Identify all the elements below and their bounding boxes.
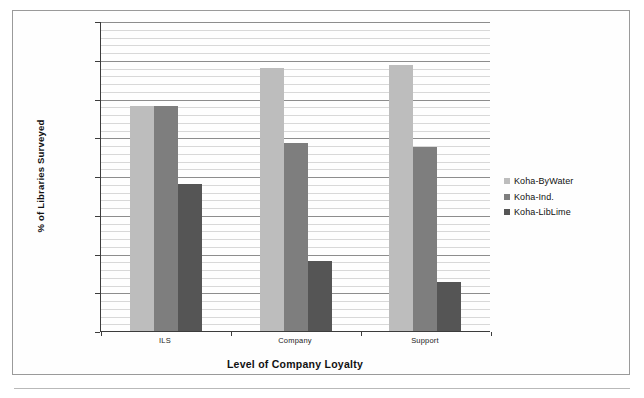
x-axis-tick-mark — [491, 332, 492, 336]
legend-item: Koha-LibLime — [504, 207, 573, 217]
bar — [389, 65, 413, 331]
bar — [130, 106, 154, 331]
legend-label: Koha-ByWater — [514, 176, 573, 186]
y-axis-tick-mark — [95, 332, 100, 333]
legend-swatch-icon — [504, 178, 510, 184]
bar — [413, 147, 437, 331]
legend-swatch-icon — [504, 209, 510, 215]
bar — [308, 261, 332, 331]
page-horizontal-rule — [14, 388, 630, 389]
y-axis-tick-labels: 98.587.576.565.55 — [0, 0, 100, 332]
bar — [437, 282, 461, 331]
x-axis-tick-label: Support — [360, 336, 490, 345]
chart-page: % of Libraries Surveyed 98.587.576.565.5… — [0, 0, 644, 398]
legend-swatch-icon — [504, 194, 510, 200]
bar-group — [231, 22, 361, 331]
bar — [154, 106, 178, 331]
bar-group — [101, 22, 231, 331]
plot-area — [100, 22, 490, 332]
legend-item: Koha-ByWater — [504, 176, 573, 186]
bar — [260, 68, 284, 332]
legend-label: Koha-Ind. — [514, 192, 554, 202]
bar-group — [360, 22, 490, 331]
bar — [178, 184, 202, 331]
x-axis-tick-label: ILS — [100, 336, 230, 345]
bar — [284, 143, 308, 331]
legend-item: Koha-Ind. — [504, 192, 573, 202]
bar-groups — [101, 22, 490, 331]
legend: Koha-ByWaterKoha-Ind.Koha-LibLime — [504, 176, 573, 223]
x-axis-title: Level of Company Loyalty — [100, 358, 490, 370]
x-axis-tick-label: Company — [230, 336, 360, 345]
x-axis-tick-labels: ILSCompanySupport — [100, 336, 490, 345]
legend-label: Koha-LibLime — [514, 207, 571, 217]
